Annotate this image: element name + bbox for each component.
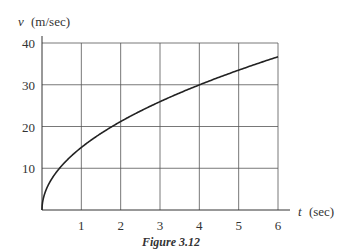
x-tick-label: 6	[275, 218, 282, 233]
y-tick-label: 20	[22, 120, 35, 135]
figure-caption: Figure 3.12	[141, 235, 200, 249]
x-axis-var: t	[298, 204, 302, 219]
y-tick-label: 40	[22, 36, 35, 51]
y-axis-label: v (m/sec)	[18, 14, 70, 29]
velocity-chart: 12345610203040 v (m/sec) t (sec) Figure …	[0, 0, 345, 251]
x-tick-label: 5	[235, 218, 242, 233]
x-tick-label: 4	[196, 218, 203, 233]
y-tick-label: 10	[22, 161, 35, 176]
tick-labels: 12345610203040	[22, 36, 282, 233]
x-tick-label: 1	[78, 218, 85, 233]
x-tick-label: 3	[157, 218, 164, 233]
y-axis-unit: (m/sec)	[31, 14, 70, 29]
x-axis-unit: (sec)	[309, 204, 334, 219]
x-tick-label: 2	[117, 218, 124, 233]
x-axis-label: t (sec)	[298, 204, 334, 219]
axes	[42, 36, 290, 210]
y-tick-label: 30	[22, 78, 35, 93]
y-axis-var: v	[18, 14, 24, 29]
